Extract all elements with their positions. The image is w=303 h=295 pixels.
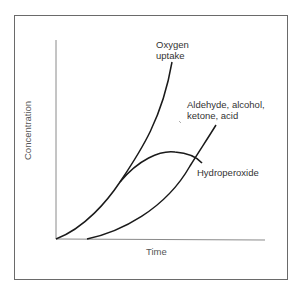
y-axis-label: Concentration bbox=[22, 101, 33, 160]
label-aldehyde-line1: Aldehyde, alcohol, bbox=[187, 99, 265, 110]
label-aldehyde-line2: ketone, acid bbox=[187, 110, 238, 121]
x-axis-label: Time bbox=[146, 246, 167, 257]
stray-mark bbox=[179, 121, 181, 123]
chart: Oxygen uptake Aldehyde, alcohol, ketone,… bbox=[0, 0, 303, 295]
label-hydroperoxide: Hydroperoxide bbox=[197, 167, 259, 178]
aldehyde-curve bbox=[87, 125, 216, 239]
oxygen-uptake-curve bbox=[56, 62, 172, 239]
label-oxygen-line2: uptake bbox=[156, 50, 185, 61]
label-oxygen-line1: Oxygen bbox=[156, 39, 189, 50]
